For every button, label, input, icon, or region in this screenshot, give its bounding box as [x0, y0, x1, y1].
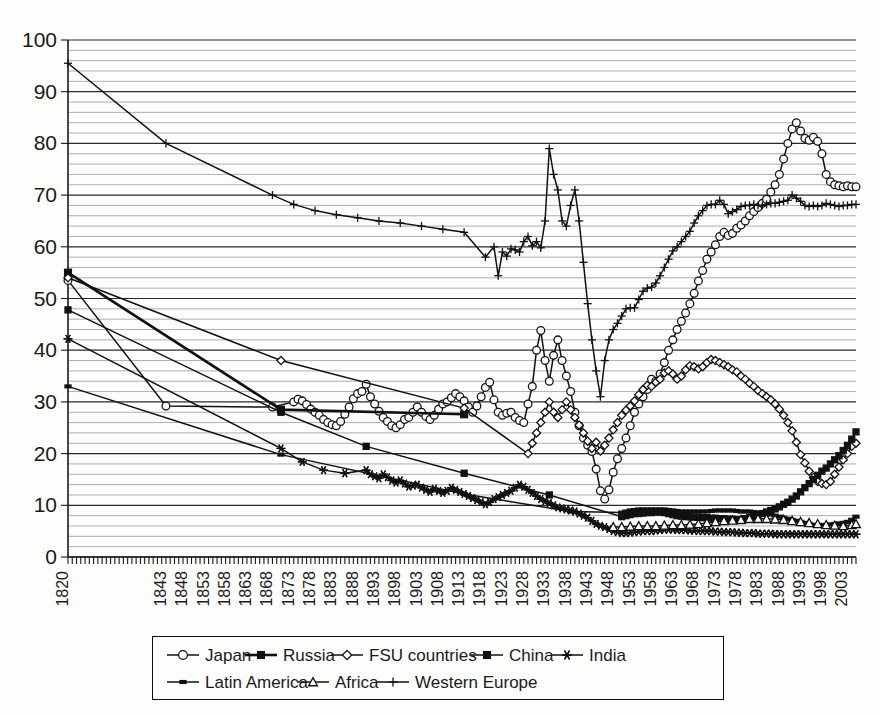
- y-tick-label: 30: [34, 390, 57, 413]
- y-tick-label: 80: [34, 131, 57, 154]
- data-point-marker: [278, 453, 284, 456]
- data-point-marker: [558, 357, 566, 365]
- data-point-marker: [490, 396, 498, 404]
- data-point-marker: [797, 127, 805, 135]
- x-tick-label: 2003: [833, 571, 850, 607]
- x-tick-label: 1918: [471, 571, 488, 607]
- x-tick-label: 1948: [599, 571, 616, 607]
- x-tick-label: 1820: [54, 571, 71, 607]
- x-tick-label: 1998: [812, 571, 829, 607]
- x-tick-label: 1978: [727, 571, 744, 607]
- legend-label: Africa: [335, 673, 379, 692]
- data-point-marker: [597, 487, 605, 495]
- x-tick-label: 1848: [173, 571, 190, 607]
- x-tick-label: 1903: [408, 571, 425, 607]
- legend-item-russia[interactable]: Russia: [245, 646, 336, 665]
- x-tick-label: 1983: [748, 571, 765, 607]
- data-point-marker: [477, 393, 485, 401]
- legend-label: Russia: [283, 646, 336, 665]
- chart-legend: JapanRussiaFSU countriesChinaIndiaLatin …: [152, 636, 724, 700]
- x-axis-labels: 1820184318481853185818631868187318781883…: [54, 571, 850, 607]
- data-point-marker: [65, 307, 71, 313]
- x-tick-label: 1968: [684, 571, 701, 607]
- data-point-marker: [358, 388, 366, 396]
- legend-item-fsu-countries[interactable]: FSU countries: [331, 646, 477, 665]
- legend-item-japan[interactable]: Japan: [167, 646, 251, 665]
- data-point-marker: [682, 309, 690, 317]
- x-tick-label: 1888: [344, 571, 361, 607]
- x-tick-label: 1898: [386, 571, 403, 607]
- data-point-marker: [550, 351, 558, 359]
- x-tick-label: 1923: [493, 571, 510, 607]
- data-point-marker: [660, 359, 668, 367]
- x-tick-label: 1863: [237, 571, 254, 607]
- data-point-marker: [363, 443, 369, 449]
- data-point-marker: [686, 300, 694, 308]
- x-tick-label: 1993: [791, 571, 808, 607]
- y-tick-label: 90: [34, 80, 57, 103]
- data-point-marker: [568, 510, 574, 513]
- data-point-marker: [669, 336, 677, 344]
- data-point-marker: [484, 652, 491, 659]
- data-point-marker: [699, 267, 707, 275]
- data-point-marker: [524, 400, 532, 408]
- data-point-marker: [486, 378, 494, 386]
- data-point-marker: [690, 289, 698, 297]
- data-point-marker: [849, 436, 855, 442]
- data-point-marker: [601, 495, 609, 503]
- y-tick-label: 70: [34, 183, 57, 206]
- legend-label: Latin America: [205, 673, 309, 692]
- data-point-marker: [367, 393, 375, 401]
- data-point-marker: [278, 409, 284, 415]
- data-point-marker: [337, 418, 345, 426]
- legend-item-latin-america[interactable]: Latin America: [167, 673, 309, 692]
- data-point-marker: [665, 346, 673, 354]
- data-point-marker: [703, 255, 711, 263]
- legend-item-africa[interactable]: Africa: [297, 673, 379, 692]
- x-tick-label: 1873: [280, 571, 297, 607]
- data-point-marker: [775, 171, 783, 179]
- y-tick-label: 100: [22, 28, 57, 51]
- line-chart: 1820184318481853185818631868187318781883…: [0, 0, 880, 715]
- x-tick-label: 1913: [450, 571, 467, 607]
- legend-label: India: [589, 646, 626, 665]
- x-tick-label: 1938: [557, 571, 574, 607]
- data-point-marker: [461, 493, 467, 496]
- legend-item-india[interactable]: India: [551, 646, 626, 665]
- data-point-marker: [533, 346, 541, 354]
- x-tick-label: 1878: [301, 571, 318, 607]
- data-point-marker: [695, 277, 703, 285]
- data-point-marker: [179, 651, 188, 660]
- data-point-marker: [528, 383, 536, 391]
- data-point-marker: [814, 137, 822, 145]
- data-point-marker: [626, 422, 634, 430]
- data-point-marker: [541, 357, 549, 365]
- data-point-marker: [180, 681, 186, 684]
- data-point-marker: [520, 419, 528, 427]
- y-tick-label: 50: [34, 287, 57, 310]
- data-point-marker: [567, 388, 575, 396]
- data-point-marker: [342, 650, 351, 659]
- x-tick-label: 1843: [152, 571, 169, 607]
- data-point-marker: [622, 434, 630, 442]
- legend-label: Western Europe: [415, 673, 538, 692]
- x-tick-label: 1883: [322, 571, 339, 607]
- data-point-marker: [677, 317, 685, 325]
- data-point-marker: [562, 651, 572, 660]
- data-point-marker: [673, 326, 681, 334]
- y-tick-label: 0: [45, 545, 57, 568]
- data-point-marker: [844, 442, 850, 448]
- data-point-marker: [771, 181, 779, 189]
- legend-item-china[interactable]: China: [471, 646, 554, 665]
- data-point-marker: [822, 171, 830, 179]
- data-point-marker: [853, 429, 859, 435]
- data-point-marker: [545, 377, 553, 385]
- data-point-marker: [537, 327, 545, 335]
- data-point-marker: [371, 400, 379, 408]
- data-point-marker: [767, 188, 775, 196]
- chart-background: [0, 0, 880, 715]
- data-point-marker: [852, 183, 860, 191]
- legend-item-western-europe[interactable]: Western Europe: [377, 673, 538, 692]
- y-tick-label: 60: [34, 235, 57, 258]
- data-point-marker: [461, 470, 467, 476]
